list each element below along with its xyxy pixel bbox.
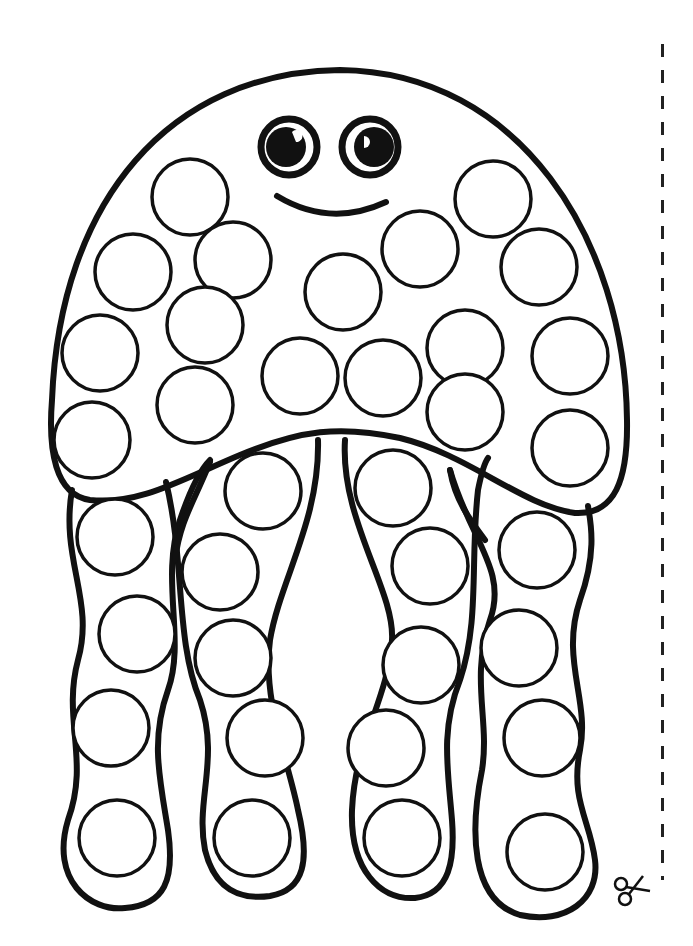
cut-guide-dashed-line xyxy=(661,44,664,880)
tentacle-dot-circle xyxy=(504,700,580,776)
left-eye-icon xyxy=(261,119,317,175)
head-dot-circle xyxy=(532,410,608,486)
tentacle-dot-circle xyxy=(99,596,175,672)
head-dot-circle xyxy=(167,287,243,363)
tentacle-dot-circle xyxy=(507,814,583,890)
head-dot-circle xyxy=(532,318,608,394)
smile-icon xyxy=(277,196,386,214)
jellyfish-illustration xyxy=(0,0,693,946)
tentacle-dot-circle xyxy=(481,610,557,686)
tentacle-dot-circle xyxy=(77,499,153,575)
tentacle-dot-circle xyxy=(214,800,290,876)
tentacle-dot-circle xyxy=(364,800,440,876)
head-dot-circle xyxy=(305,254,381,330)
tentacle-dot-circle xyxy=(182,534,258,610)
scissors-icon xyxy=(612,872,652,908)
head-dot-circle xyxy=(501,229,577,305)
head-dot-circle xyxy=(455,161,531,237)
head-dot-circle xyxy=(382,211,458,287)
tentacle-dot-circle xyxy=(227,700,303,776)
tentacle-dot-circle xyxy=(383,627,459,703)
head-dot-circle xyxy=(54,402,130,478)
head-dot-circle xyxy=(157,367,233,443)
dot-circles xyxy=(54,159,608,890)
tentacle-dot-circle xyxy=(195,620,271,696)
head-dot-circle xyxy=(427,374,503,450)
tentacle-dot-circle xyxy=(355,450,431,526)
head-dot-circle xyxy=(345,340,421,416)
head-dot-circle xyxy=(262,338,338,414)
face xyxy=(261,119,398,214)
right-eye-icon xyxy=(342,119,398,175)
tentacle-dot-circle xyxy=(79,800,155,876)
head-dot-circle xyxy=(95,234,171,310)
tentacle-dot-circle xyxy=(392,528,468,604)
tentacle-dot-circle xyxy=(348,710,424,786)
head-dot-circle xyxy=(152,159,228,235)
tentacle-dot-circle xyxy=(499,512,575,588)
head-dot-circle xyxy=(62,315,138,391)
tentacle-dot-circle xyxy=(225,453,301,529)
tentacle-dot-circle xyxy=(73,690,149,766)
